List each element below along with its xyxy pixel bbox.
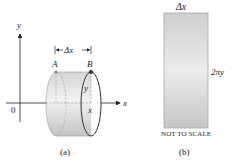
radius-label: y [83,83,88,93]
point-b [89,70,93,74]
surface-area-figure: y x 0 A B [0,0,236,162]
panel-a: y x 0 A B [6,20,127,157]
point-b-label: B [87,59,93,69]
origin-label: 0 [11,105,16,115]
panel-a-caption: (a) [60,147,70,157]
rect-height-label: 2πy [211,67,224,77]
figure-canvas: y x 0 A B [0,0,236,162]
unrolled-surface-rect [164,13,208,128]
rect-width-label: Δx [175,1,187,12]
delta-x-dimension: Δx [55,45,91,55]
x-axis-label: x [122,98,127,108]
delta-x-label: Δx [63,45,73,55]
point-a [54,70,57,73]
y-axis-label: y [16,20,21,30]
point-a-label: A [51,59,58,69]
panel-b-caption: (b) [179,147,190,157]
position-label: x [87,105,92,115]
not-to-scale-note: NOT TO SCALE [161,130,211,138]
panel-b: Δx 2πy NOT TO SCALE (b) [161,1,224,157]
